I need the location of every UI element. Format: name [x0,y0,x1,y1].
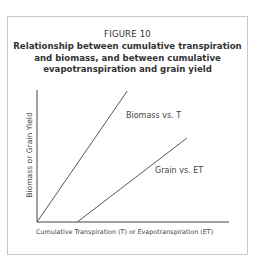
grain-line [77,138,186,222]
y-axis-label: Biomass or Grain Yield [25,112,34,198]
biomass-series-label: Biomass vs. T [126,111,181,120]
x-axis-label: Cumulative Transpiration (T) or Evapotra… [36,228,213,236]
plot-area [0,0,262,266]
grain-series-label: Grain vs. ET [155,166,203,175]
biomass-line [37,91,127,222]
